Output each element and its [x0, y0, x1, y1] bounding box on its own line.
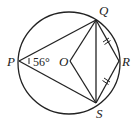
segment-QR — [96, 20, 119, 61]
segment-PQ — [19, 20, 96, 61]
label-S: S — [96, 106, 103, 121]
label-P: P — [6, 54, 15, 69]
label-Q: Q — [99, 3, 109, 18]
segment-QO — [70, 20, 96, 61]
label-O: O — [59, 54, 69, 69]
circle-diagram: P Q R S O 56° — [0, 0, 138, 124]
angle-label-P: 56° — [33, 55, 50, 69]
segment-OS — [70, 61, 96, 103]
label-R: R — [121, 54, 130, 69]
